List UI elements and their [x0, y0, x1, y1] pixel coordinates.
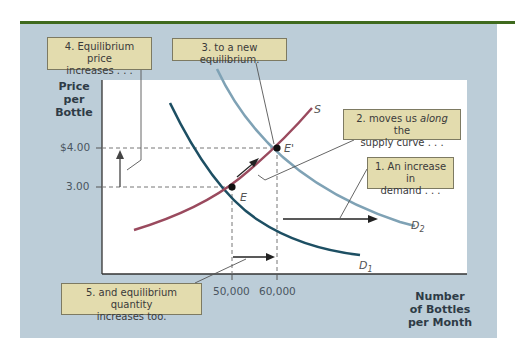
y-axis-title: Price per Bottle	[52, 80, 96, 119]
point-e-label: E	[240, 191, 247, 204]
callout-5-quantity-increase: 5. and equilibrium quantity increases to…	[61, 283, 202, 315]
demand-curve-d1	[170, 103, 360, 255]
point-e-prime-label: E'	[284, 142, 294, 155]
callout-1-demand-increase: 1. An increase in demand . . .	[367, 157, 454, 189]
supply-curve	[134, 108, 312, 230]
guide-lines	[102, 148, 277, 274]
x-tick-50000: 50,000	[213, 285, 250, 297]
supply-label: S	[314, 103, 321, 116]
demand1-label: D1	[359, 259, 373, 274]
x-tick-60000: 60,000	[259, 285, 296, 297]
y-tick-4: $4.00	[60, 141, 90, 153]
callout-3-new-equilibrium: 3. to a new equilibrium.	[172, 38, 287, 61]
x-axis-title: Number of Bottles per Month	[405, 290, 475, 329]
demand2-label: D2	[411, 219, 425, 234]
equilibrium-point-e	[228, 183, 235, 190]
callout-2-move-along-supply: 2. moves us along the supply curve . . .	[343, 109, 461, 140]
equilibrium-point-e-prime	[273, 144, 280, 151]
callout-4-price-increase: 4. Equilibrium price increases . . .	[47, 37, 152, 70]
y-tick-3: 3.00	[66, 180, 89, 192]
